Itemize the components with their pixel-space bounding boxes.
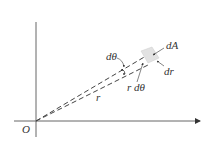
arc-length-label: r dθ [127,82,145,93]
diagram-canvas [0,0,206,147]
dr-leader [157,61,164,66]
origin-label: O [22,124,30,135]
area-element-dA [141,47,159,63]
dr-label: dr [164,66,174,77]
dtheta-label: dθ [106,51,117,62]
polar-area-diagram: O r dθ r dθ dA dr [0,0,206,147]
radius-label: r [96,92,100,103]
area-label: dA [166,40,178,51]
dtheta-leader [117,58,124,67]
arc-leader [137,63,143,82]
